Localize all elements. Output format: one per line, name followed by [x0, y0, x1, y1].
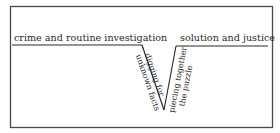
- diagram-canvas: crime and routine investigation solution…: [0, 0, 280, 133]
- start-label: crime and routine investigation: [14, 32, 167, 43]
- plot-structure-diagram: crime and routine investigation solution…: [0, 0, 280, 133]
- end-label: solution and justice: [180, 32, 275, 43]
